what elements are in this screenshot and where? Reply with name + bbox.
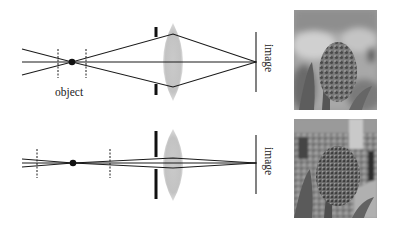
lens-shape <box>163 129 183 201</box>
image-label: image <box>262 44 275 72</box>
photo-deep-dof <box>294 119 377 218</box>
upper-ray <box>22 34 256 62</box>
object-label: object <box>55 86 84 99</box>
object-point <box>70 160 77 167</box>
lower-ray <box>22 62 256 87</box>
bottom-panel-small-aperture: image <box>22 129 275 201</box>
object-point <box>69 59 76 66</box>
upper-ray <box>22 158 256 163</box>
lower-ray <box>22 163 256 168</box>
top-panel-large-aperture: object image <box>22 23 275 101</box>
image-label: image <box>262 147 275 175</box>
photo-shallow-dof <box>294 10 377 110</box>
